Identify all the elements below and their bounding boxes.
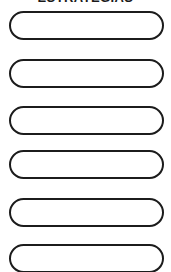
strategy-field-2[interactable] — [9, 59, 164, 88]
strategy-field-3[interactable] — [9, 106, 164, 135]
strategy-field-6[interactable] — [9, 244, 164, 272]
estrategias-worksheet: ESTRATEGIAS — [0, 0, 171, 272]
strategy-field-list — [0, 0, 171, 272]
strategy-field-4[interactable] — [9, 150, 164, 179]
strategy-field-1[interactable] — [9, 11, 164, 40]
strategy-field-5[interactable] — [9, 198, 164, 227]
